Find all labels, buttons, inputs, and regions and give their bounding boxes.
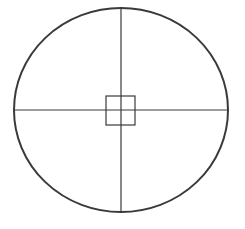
circle-crosshair-diagram: [0, 0, 245, 229]
